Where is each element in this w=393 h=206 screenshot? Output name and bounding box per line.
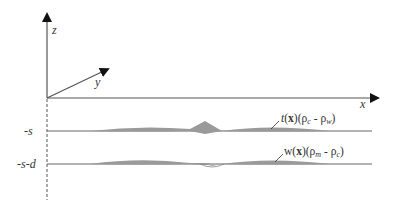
density-layer-diagram: z y x -s -s-d t(x)(ρc - ρw) w(x)(ρm - ρc… (0, 0, 393, 206)
x-axis-label: x (359, 97, 366, 111)
top-layer-annotation: t(x)(ρc - ρw) (281, 112, 335, 126)
level-s-label: -s (24, 124, 33, 138)
bottom-layer-annotation: w(x)(ρm - ρc) (284, 145, 344, 159)
bottom-layer-thickness-shape (90, 160, 330, 166)
z-axis-label: z (51, 23, 57, 37)
level-s-d-label: -s-d (17, 157, 37, 171)
y-axis-label: y (94, 75, 101, 89)
